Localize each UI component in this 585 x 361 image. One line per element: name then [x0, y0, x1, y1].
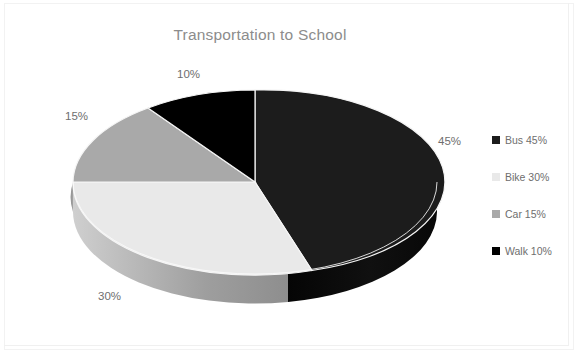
legend-swatch-bike-icon — [492, 173, 500, 181]
legend-swatch-walk-icon — [492, 247, 500, 255]
legend-item-bus[interactable]: Bus 45% — [492, 132, 580, 148]
data-label-bike: 30% — [98, 290, 121, 302]
chart-canvas: Transportation to School — [0, 0, 585, 361]
chart-legend: Bus 45% Bike 30% Car 15% Walk 10% — [492, 132, 580, 280]
legend-label-car: Car 15% — [505, 209, 546, 220]
legend-swatch-bus-icon — [492, 136, 500, 144]
data-label-car: 15% — [65, 110, 88, 122]
legend-label-walk: Walk 10% — [505, 246, 552, 257]
data-label-bus: 45% — [438, 135, 461, 147]
legend-item-bike[interactable]: Bike 30% — [492, 169, 580, 185]
data-label-walk: 10% — [177, 68, 200, 80]
legend-label-bus: Bus 45% — [505, 135, 547, 146]
legend-swatch-car-icon — [492, 210, 500, 218]
legend-item-car[interactable]: Car 15% — [492, 206, 580, 222]
legend-item-walk[interactable]: Walk 10% — [492, 243, 580, 259]
legend-label-bike: Bike 30% — [505, 172, 549, 183]
